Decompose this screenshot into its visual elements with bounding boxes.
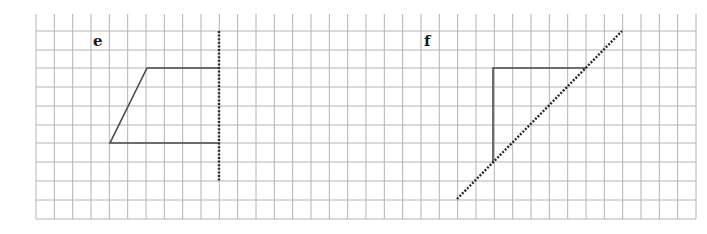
figure-f: f — [424, 31, 622, 199]
figure-label-e: e — [93, 32, 103, 50]
mirror-line-f — [457, 31, 622, 199]
figure-label-f: f — [424, 32, 432, 50]
grid-diagram: e f — [0, 0, 707, 234]
shape-f-triangle — [493, 68, 586, 162]
square-grid — [36, 14, 696, 219]
